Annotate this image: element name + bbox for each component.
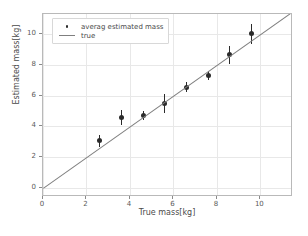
y-tick-mark-10 <box>39 33 42 34</box>
legend-entry-average-estimated-mass: averag estimated mass <box>56 22 163 31</box>
gridline-vertical-0 <box>43 14 44 195</box>
x-tick-mark-0 <box>42 196 43 199</box>
y-tick-label-0: 0 <box>18 183 36 191</box>
y-tick-mark-2 <box>39 156 42 157</box>
data-point <box>119 115 124 120</box>
legend-entry-true: true <box>56 31 163 40</box>
x-tick-label-4: 4 <box>127 200 131 208</box>
y-tick-mark-4 <box>39 125 42 126</box>
x-tick-label-0: 0 <box>40 200 44 208</box>
gridline-horizontal-2 <box>43 157 291 158</box>
gridline-vertical-8 <box>217 14 218 195</box>
y-tick-label-6: 6 <box>18 91 36 99</box>
gridline-horizontal-6 <box>43 96 291 97</box>
x-tick-mark-10 <box>259 196 260 199</box>
data-point <box>97 138 102 143</box>
x-tick-mark-8 <box>216 196 217 199</box>
x-axis-title: True mass[kg] <box>42 208 292 217</box>
legend-marker-dot-icon <box>56 25 78 28</box>
x-tick-label-8: 8 <box>214 200 218 208</box>
y-tick-mark-8 <box>39 64 42 65</box>
y-tick-label-8: 8 <box>18 60 36 68</box>
y-tick-label-4: 4 <box>18 121 36 129</box>
gridline-vertical-6 <box>173 14 174 195</box>
y-tick-mark-0 <box>39 187 42 188</box>
x-tick-label-10: 10 <box>255 200 264 208</box>
y-tick-label-2: 2 <box>18 152 36 160</box>
chart-legend: averag estimated mass true <box>52 18 169 44</box>
y-tick-mark-6 <box>39 95 42 96</box>
gridline-horizontal-0 <box>43 188 291 189</box>
data-point <box>249 31 254 36</box>
x-tick-mark-6 <box>172 196 173 199</box>
gridline-horizontal-8 <box>43 65 291 66</box>
gridline-vertical-10 <box>260 14 261 195</box>
legend-line-icon <box>56 35 78 36</box>
x-tick-label-6: 6 <box>170 200 174 208</box>
x-tick-mark-2 <box>85 196 86 199</box>
figure-canvas: averag estimated mass true True mass[kg]… <box>0 0 308 236</box>
y-tick-label-10: 10 <box>18 29 36 37</box>
data-point <box>206 73 211 78</box>
legend-label-average-estimated-mass: averag estimated mass <box>78 23 163 31</box>
x-tick-label-2: 2 <box>83 200 87 208</box>
x-tick-mark-4 <box>129 196 130 199</box>
legend-label-true: true <box>78 32 95 40</box>
gridline-horizontal-4 <box>43 126 291 127</box>
